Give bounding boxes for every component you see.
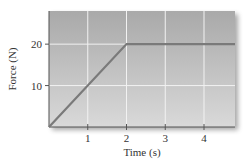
plot-area xyxy=(49,11,235,127)
x-axis-label: Time (s) xyxy=(123,146,161,159)
y-axis-ticks: 1020 xyxy=(31,38,49,91)
x-tick-label: 1 xyxy=(85,132,91,144)
y-tick-label: 10 xyxy=(31,80,43,92)
force-time-chart: 1234 1020 Time (s) Force (N) xyxy=(0,0,248,167)
y-axis-label: Force (N) xyxy=(6,47,19,90)
x-tick-label: 3 xyxy=(163,132,169,144)
x-tick-label: 4 xyxy=(201,132,207,144)
y-tick-label: 20 xyxy=(31,38,43,50)
x-tick-label: 2 xyxy=(124,132,130,144)
